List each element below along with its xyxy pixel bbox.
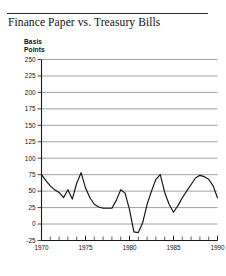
gridlines-group — [42, 60, 218, 225]
y-tick-label: 0 — [32, 220, 36, 227]
y-tick-label: 225 — [25, 72, 36, 79]
y-tick-label: 100 — [25, 155, 36, 162]
chart-figure: Finance Paper vs. Treasury Bills Basis P… — [0, 0, 226, 276]
plot-area: -250255075100125150175200225250 19701975… — [0, 0, 226, 276]
x-axis-ticks-group: 19701975198019851990 — [34, 236, 225, 251]
x-tick-label: 1970 — [34, 244, 49, 251]
y-tick-label: 125 — [25, 138, 36, 145]
y-tick-label: 25 — [28, 204, 36, 211]
x-tick-label: 1980 — [122, 244, 137, 251]
x-tick-label: 1990 — [210, 244, 225, 251]
y-tick-label: 250 — [25, 56, 36, 63]
y-tick-label: 150 — [25, 122, 36, 129]
y-tick-label: 75 — [28, 171, 36, 178]
data-series-line — [42, 173, 218, 233]
x-tick-label: 1975 — [78, 244, 93, 251]
y-tick-label: 175 — [25, 105, 36, 112]
x-tick-label: 1985 — [166, 244, 181, 251]
y-axis-ticks-group: -250255075100125150175200225250 — [25, 56, 42, 244]
y-tick-label: 200 — [25, 89, 36, 96]
y-tick-label: 50 — [28, 187, 36, 194]
